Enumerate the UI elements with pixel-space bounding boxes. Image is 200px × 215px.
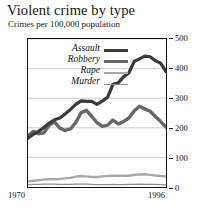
y-tick-label: 300: [175, 93, 188, 103]
violent-crime-chart: Violent crime by type Crimes per 100,000…: [0, 0, 200, 215]
chart-title: Violent crime by type: [7, 2, 135, 19]
legend-item-murder: Murder: [32, 75, 128, 86]
legend-label: Murder: [71, 76, 104, 86]
legend-label: Rape: [80, 65, 104, 75]
y-axis: 5004003002001000: [169, 38, 199, 188]
y-tick-mark: [169, 98, 173, 99]
x-tick-start: 1970: [8, 190, 25, 200]
y-tick-mark: [169, 188, 173, 189]
y-tick-label: 500: [175, 33, 188, 43]
x-tick-end: 1996: [148, 190, 165, 200]
y-tick-label: 200: [175, 123, 188, 133]
y-tick-mark: [169, 128, 173, 129]
y-tick-mark: [169, 158, 173, 159]
y-tick-mark: [169, 68, 173, 69]
y-tick-mark: [169, 38, 173, 39]
legend-swatch-murder-icon: [104, 72, 128, 90]
y-tick-label: 400: [175, 63, 188, 73]
series-line-murder: [28, 184, 166, 185]
series-line-rape: [28, 174, 166, 181]
y-tick-label: 100: [175, 153, 188, 163]
chart-legend: AssaultRobberyRapeMurder: [32, 42, 128, 86]
legend-label: Assault: [72, 43, 104, 53]
chart-subtitle: Crimes per 100,000 population: [8, 19, 120, 29]
legend-label: Robbery: [68, 54, 104, 64]
series-line-robbery: [28, 106, 166, 136]
x-axis: 1970 1996: [0, 190, 200, 212]
